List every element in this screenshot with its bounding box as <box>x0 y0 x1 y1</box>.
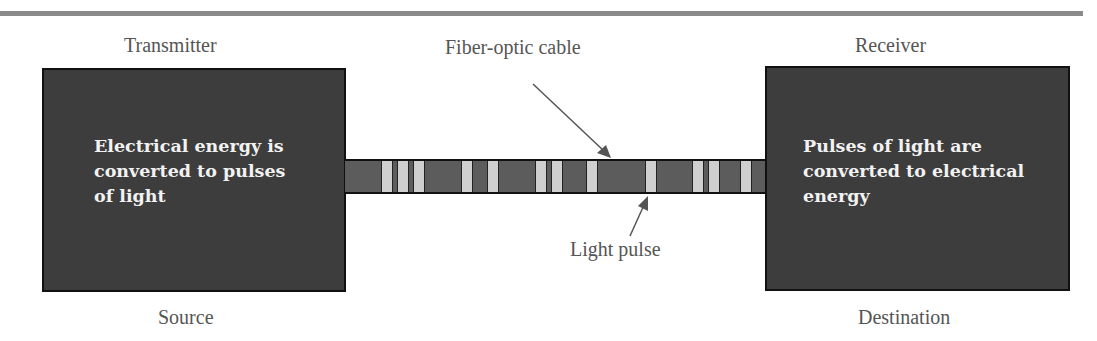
cable-arrow-icon <box>533 84 611 158</box>
pulse-arrow-icon <box>630 196 648 236</box>
arrows <box>0 0 1097 341</box>
